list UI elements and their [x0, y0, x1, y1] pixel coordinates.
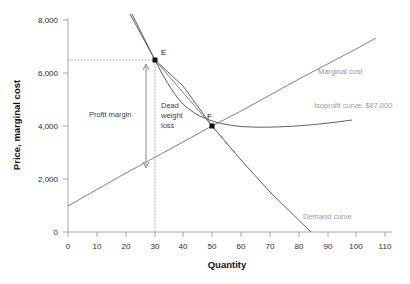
y-tick-label-0: 0: [54, 228, 59, 237]
x-tick-label-70: 70: [266, 242, 275, 251]
point-f-marker: [210, 124, 215, 129]
isoprofit-curve-label: Isoprofit curve: $87,000: [314, 101, 392, 110]
y-axis: [63, 18, 68, 232]
x-tick-label-60: 60: [237, 242, 246, 251]
marginal-cost-curve: [68, 38, 376, 206]
x-tick-label-10: 10: [93, 242, 102, 251]
chart-canvas: 8,000 6,000 4,000 2,000 0 0 10 20 30 40 …: [0, 0, 410, 284]
x-tick-label-40: 40: [179, 242, 188, 251]
deadweight-loss-line-2: weight: [160, 111, 184, 120]
point-e-label: E: [161, 48, 166, 57]
x-tick-label-90: 90: [324, 242, 333, 251]
x-axis: [68, 232, 392, 237]
deadweight-loss-line-3: loss: [161, 121, 175, 130]
x-tick-label-30: 30: [151, 242, 160, 251]
y-tick-label-6000: 6,000: [38, 69, 59, 78]
profit-margin-label: Profit margin: [89, 110, 132, 119]
marginal-cost-label: Marginal cost: [318, 67, 364, 76]
y-axis-title: Price, marginal cost: [11, 79, 22, 170]
deadweight-loss-label: Dead weight loss: [160, 101, 184, 130]
deadweight-loss-line-1: Dead: [161, 101, 179, 110]
y-tick-label-4000: 4,000: [38, 122, 59, 131]
x-tick-label-0: 0: [66, 242, 71, 251]
x-tick-label-100: 100: [349, 242, 363, 251]
x-tick-label-110: 110: [379, 242, 392, 251]
chart-figure: 8,000 6,000 4,000 2,000 0 0 10 20 30 40 …: [0, 0, 410, 284]
point-e-marker: [153, 58, 158, 63]
y-tick-label-2000: 2,000: [38, 175, 59, 184]
y-tick-label-8000: 8,000: [38, 16, 59, 25]
profit-margin-arrow: [143, 64, 149, 168]
point-f-label: F: [207, 112, 212, 121]
x-axis-title: Quantity: [208, 259, 247, 270]
x-tick-label-80: 80: [295, 242, 304, 251]
x-tick-label-50: 50: [208, 242, 217, 251]
x-tick-label-20: 20: [122, 242, 131, 251]
demand-curve-label: Demand curve: [303, 212, 352, 221]
